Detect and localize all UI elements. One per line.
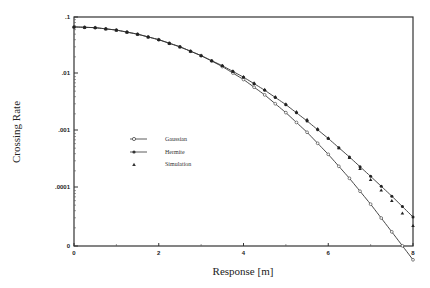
filled-circle-marker-icon xyxy=(132,150,135,153)
legend-label: Gaussian xyxy=(165,136,187,142)
x-axis-title: Response [m] xyxy=(213,265,274,277)
data-point xyxy=(337,165,340,168)
y-tick-label: .0001 xyxy=(55,184,71,190)
y-tick-label: .01 xyxy=(62,70,71,76)
data-point xyxy=(284,111,287,114)
y-tick-label: .001 xyxy=(58,127,70,133)
data-point xyxy=(401,205,404,208)
data-point xyxy=(306,131,309,134)
x-tick-label: 8 xyxy=(411,250,415,256)
legend-label: Simulation xyxy=(165,161,191,167)
data-point xyxy=(412,215,415,218)
series-hermite xyxy=(73,25,415,218)
x-tick-label: 4 xyxy=(242,250,246,256)
data-point xyxy=(305,118,309,121)
legend-item-gaussian: Gaussian xyxy=(130,136,187,142)
data-point xyxy=(295,121,298,124)
legend-label: Hermite xyxy=(165,149,185,155)
data-point xyxy=(359,190,362,193)
data-point xyxy=(401,211,405,214)
open-circle-marker-icon xyxy=(132,137,135,140)
x-tick-label: 0 xyxy=(72,250,76,256)
data-point xyxy=(369,175,372,178)
data-point xyxy=(380,185,383,188)
triangle-marker-icon xyxy=(132,163,136,166)
data-point xyxy=(390,230,393,233)
legend-item-hermite: Hermite xyxy=(130,149,185,155)
data-point xyxy=(412,258,415,261)
data-point xyxy=(379,189,383,192)
y-tick-label: 0 xyxy=(67,243,71,249)
data-point xyxy=(411,224,415,227)
x-tick-label: 2 xyxy=(157,250,161,256)
data-point xyxy=(401,244,404,247)
data-point xyxy=(274,102,277,105)
y-tick-label: .1 xyxy=(65,14,71,20)
y-axis-title: Crossing Rate xyxy=(10,101,22,163)
series-gaussian xyxy=(73,26,415,262)
data-point xyxy=(369,178,373,181)
data-point xyxy=(327,153,330,156)
data-point xyxy=(369,203,372,206)
data-point xyxy=(380,217,383,220)
legend: Gaussian Hermite Simulation xyxy=(130,136,191,167)
data-point xyxy=(348,177,351,180)
x-tick-label: 6 xyxy=(327,250,331,256)
data-point xyxy=(253,86,256,89)
data-point xyxy=(316,142,319,145)
x-axis: 02468 xyxy=(72,243,415,256)
data-point xyxy=(390,199,394,202)
legend-item-simulation: Simulation xyxy=(132,161,191,167)
series-simulation xyxy=(72,25,415,227)
data-series xyxy=(72,25,415,261)
data-point xyxy=(390,195,393,198)
data-point xyxy=(263,93,266,96)
crossing-rate-chart: .1.01.001.00010 02468 Response [m] Cross… xyxy=(0,0,430,288)
plot-frame xyxy=(74,17,413,246)
